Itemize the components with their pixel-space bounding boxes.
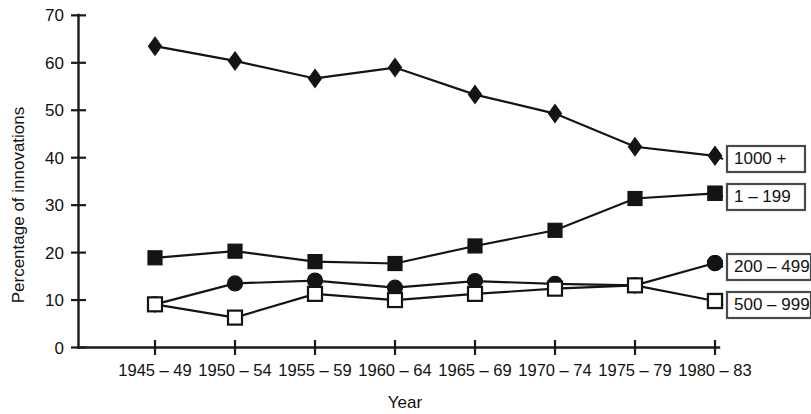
chart-legend: 1000 +1 – 199200 – 499500 – 999	[708, 146, 811, 318]
y-axis-tick-label: 40	[45, 149, 64, 168]
legend-label: 500 – 999	[734, 295, 810, 314]
x-axis-tick-label: 1980 – 83	[678, 361, 751, 379]
legend-item-500-999[interactable]: 500 – 999	[708, 292, 811, 318]
series-points-1000-+	[149, 37, 722, 165]
data-point	[628, 278, 642, 292]
y-axis-tick-label: 50	[45, 101, 64, 120]
data-point	[228, 276, 243, 291]
x-axis-tick-label: 1975 – 79	[598, 361, 671, 379]
legend-item-200-499[interactable]: 200 – 499	[708, 254, 811, 280]
data-point	[388, 293, 402, 307]
legend-label: 200 – 499	[734, 257, 810, 276]
x-axis-tick-labels: 1945 – 491950 – 541955 – 591960 – 641965…	[118, 361, 751, 379]
y-axis-tick-label: 20	[45, 244, 64, 263]
data-point	[548, 223, 562, 237]
legend-item-1000-+[interactable]: 1000 +	[709, 146, 806, 172]
series-points-1-199	[148, 186, 722, 270]
chart-container: Percentage of innovations Year 010203040…	[0, 0, 811, 414]
legend-marker-filled-diamond	[709, 147, 722, 165]
legend-marker-filled-square	[708, 186, 722, 200]
data-point	[468, 239, 482, 253]
data-point	[148, 251, 162, 265]
x-axis-tick-label: 1945 – 49	[118, 361, 191, 379]
x-axis-tick-label: 1965 – 69	[438, 361, 511, 379]
y-axis-tick-label: 30	[45, 196, 64, 215]
data-point	[229, 52, 242, 70]
x-axis-tick-label: 1950 – 54	[198, 361, 271, 379]
data-point	[308, 255, 322, 269]
legend-item-1-199[interactable]: 1 – 199	[708, 184, 805, 210]
data-point	[548, 282, 562, 296]
data-point	[228, 311, 242, 325]
data-point	[228, 244, 242, 258]
y-axis-tick-label: 60	[45, 54, 64, 73]
x-axis-title: Year	[388, 393, 423, 412]
data-point	[628, 192, 642, 206]
data-point	[149, 37, 162, 55]
y-axis-tick-label: 70	[45, 6, 64, 25]
data-point	[629, 138, 642, 156]
legend-label: 1 – 199	[734, 187, 791, 206]
data-point	[469, 86, 482, 104]
legend-label: 1000 +	[734, 149, 787, 168]
line-chart: Percentage of innovations Year 010203040…	[0, 0, 811, 414]
data-point	[468, 287, 482, 301]
data-point	[148, 297, 162, 311]
x-axis-tick-label: 1960 – 64	[358, 361, 431, 379]
data-series-layer	[148, 37, 723, 324]
legend-marker-open-square	[708, 294, 722, 308]
data-point	[388, 257, 402, 271]
y-axis-tick-label: 10	[45, 291, 64, 310]
data-point	[549, 105, 562, 123]
x-axis-tick-label: 1970 – 74	[518, 361, 591, 379]
data-point	[308, 287, 322, 301]
data-point	[309, 69, 322, 87]
data-point	[389, 59, 402, 77]
y-axis-title: Percentage of innovations	[9, 107, 28, 304]
legend-marker-filled-circle	[708, 256, 723, 271]
y-axis-tick-labels: 010203040506070	[45, 6, 64, 357]
x-axis-tick-label: 1955 – 59	[278, 361, 351, 379]
y-axis-tick-label: 0	[55, 339, 64, 358]
